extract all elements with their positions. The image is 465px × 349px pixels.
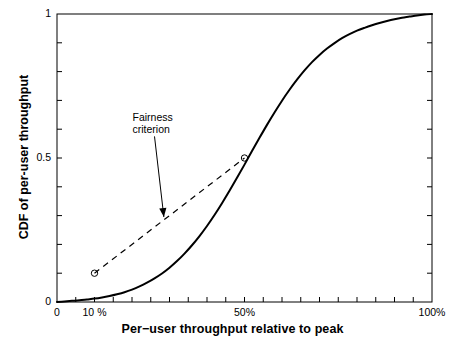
annotation-leader-line xyxy=(155,136,164,217)
y-tick-label: 1 xyxy=(11,7,51,19)
annotation-line-1: Fairness xyxy=(133,111,173,123)
plot-area xyxy=(0,0,465,349)
y-tick-label: 0 xyxy=(11,295,51,307)
x-tick-label: 10 % xyxy=(65,306,125,318)
x-tick-label: 50% xyxy=(215,306,275,318)
cdf-figure: Fairness criterion Per−user throughput r… xyxy=(0,0,465,349)
fairness-annotation-arrow xyxy=(155,136,167,217)
fairness-criterion-line xyxy=(95,158,245,273)
annotation-arrowhead xyxy=(159,208,166,217)
annotation-line-2: criterion xyxy=(133,123,173,135)
y-tick-label: 0.5 xyxy=(11,151,51,163)
fairness-annotation-label: Fairness criterion xyxy=(133,111,173,135)
x-axis-title: Per−user throughput relative to peak xyxy=(0,322,465,336)
x-axis-ticks xyxy=(76,297,414,302)
x-tick-label: 100% xyxy=(402,306,462,318)
